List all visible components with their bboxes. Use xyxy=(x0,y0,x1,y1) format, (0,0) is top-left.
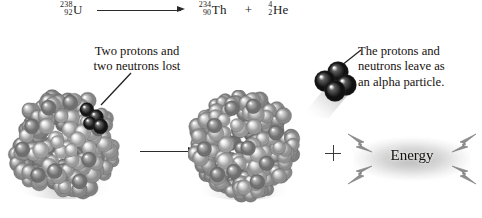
helium-symbol: He xyxy=(273,2,289,18)
right-callout-line-1: The protons and xyxy=(358,44,482,59)
helium-atomic-number: 2 xyxy=(268,9,272,17)
equation-arrow-shaft xyxy=(97,10,181,11)
uranium-numbers: 238 92 xyxy=(60,1,73,17)
left-callout-text: Two protons and two neutrons lost xyxy=(62,44,212,75)
thorium-numbers: 234 90 xyxy=(199,1,212,17)
equation-arrow-icon xyxy=(97,4,185,16)
daughter-nucleus-thorium-234 xyxy=(188,90,306,214)
uranium-symbol: U xyxy=(73,2,83,18)
nuclear-equation: 238 92 U 234 90 Th + 4 2 xyxy=(0,2,482,28)
right-callout-line-3: an alpha particle. xyxy=(358,75,482,90)
left-callout-line-2: two neutrons lost xyxy=(62,59,212,74)
helium-numbers: 4 2 xyxy=(268,1,272,17)
equation-plus-sign: + xyxy=(245,2,253,18)
energy-plus-sign xyxy=(325,145,341,161)
uranium-atomic-number: 92 xyxy=(64,9,72,17)
plus-vertical-bar xyxy=(333,145,334,161)
alpha-particle-helium-nucleus xyxy=(294,56,370,118)
right-callout-line-2: neutrons leave as xyxy=(358,59,482,74)
figure-canvas: 238 92 U 234 90 Th + 4 2 xyxy=(0,0,482,218)
nuclide-helium-4: 4 2 He xyxy=(268,2,288,18)
parent-nucleus-uranium-238 xyxy=(6,86,130,214)
nuclide-thorium-234: 234 90 Th xyxy=(199,2,227,18)
energy-burst: Energy xyxy=(342,128,482,190)
left-callout-line-1: Two protons and xyxy=(62,44,212,59)
equation-row: 238 92 U 234 90 Th + 4 2 xyxy=(60,2,288,18)
equation-arrow-head xyxy=(177,6,185,12)
nuclide-uranium-238: 238 92 U xyxy=(60,2,83,18)
thorium-atomic-number: 90 xyxy=(203,9,211,17)
right-callout-text: The protons and neutrons leave as an alp… xyxy=(358,44,482,90)
thorium-symbol: Th xyxy=(212,2,227,18)
reaction-arrow-shaft xyxy=(140,151,188,152)
energy-label: Energy xyxy=(342,147,482,164)
